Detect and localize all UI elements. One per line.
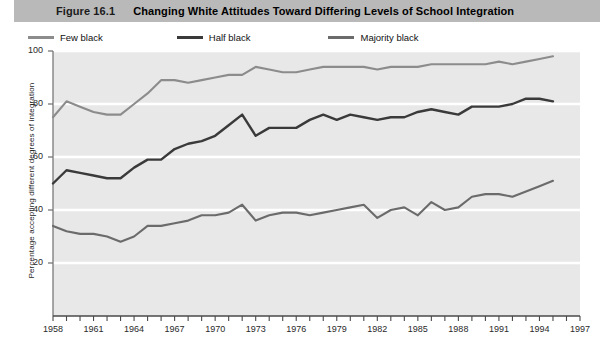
x-axis-tick-label: 1994 bbox=[522, 324, 556, 334]
y-axis-title: Percentage accepting different degrees o… bbox=[27, 56, 36, 306]
x-axis-tick-label: 1988 bbox=[441, 324, 475, 334]
chart-plot-area: Percentage accepting different degrees o… bbox=[0, 0, 600, 342]
x-axis-tick-label: 1976 bbox=[279, 324, 313, 334]
y-axis-tick-label: 20 bbox=[19, 257, 43, 267]
x-axis-tick-label: 1997 bbox=[563, 324, 597, 334]
y-axis-tick-label: 80 bbox=[19, 98, 43, 108]
figure-container: Figure 16.1 Changing White Attitudes Tow… bbox=[0, 0, 600, 342]
plot-background bbox=[53, 51, 580, 316]
x-axis-tick-label: 1979 bbox=[320, 324, 354, 334]
x-axis-tick-label: 1985 bbox=[401, 324, 435, 334]
x-axis-tick-label: 1973 bbox=[239, 324, 273, 334]
y-axis-tick-label: 60 bbox=[19, 151, 43, 161]
x-axis-tick-label: 1964 bbox=[117, 324, 151, 334]
x-axis-tick-label: 1961 bbox=[77, 324, 111, 334]
y-axis-tick-label: 100 bbox=[19, 45, 43, 55]
x-axis-tick-label: 1991 bbox=[482, 324, 516, 334]
x-axis-tick-label: 1958 bbox=[36, 324, 70, 334]
x-axis-tick-label: 1970 bbox=[198, 324, 232, 334]
line-chart-svg bbox=[0, 0, 600, 342]
x-axis-tick-label: 1967 bbox=[158, 324, 192, 334]
y-axis-tick-label: 40 bbox=[19, 204, 43, 214]
x-axis-tick-label: 1982 bbox=[360, 324, 394, 334]
